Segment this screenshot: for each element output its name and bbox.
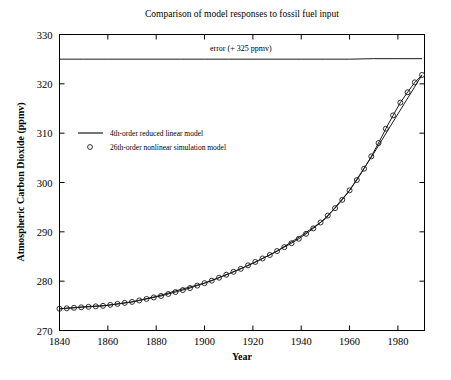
- y-tick-label: 290: [37, 227, 53, 238]
- error-trace: [60, 59, 423, 60]
- linear-model-path: [60, 75, 423, 309]
- y-tick-label: 310: [37, 128, 53, 139]
- legend-label-linear: 4th-order reduced linear model: [110, 129, 203, 138]
- error-annotation-label: error (+ 325 ppmv): [210, 44, 272, 53]
- y-axis-ticks: 270280290300310320330: [37, 30, 425, 337]
- linear-model-series: [60, 75, 423, 309]
- x-tick-label: 1960: [339, 336, 360, 347]
- x-tick-label: 1840: [49, 336, 70, 347]
- y-tick-label: 320: [37, 79, 53, 90]
- legend-label-nonlinear: 26th-order nonlinear simulation model: [110, 143, 226, 152]
- x-axis-ticks: 18401860188019001920194019601980: [49, 35, 408, 347]
- error-line-path: [60, 59, 423, 60]
- nonlinear-model-series: [57, 72, 425, 311]
- x-tick-label: 1860: [97, 336, 118, 347]
- plot-frame: [60, 35, 425, 331]
- legend-circle-swatch: [88, 145, 93, 150]
- y-tick-label: 300: [37, 178, 53, 189]
- y-tick-label: 280: [37, 276, 53, 287]
- chart-canvas: Comparison of model responses to fossil …: [0, 0, 451, 380]
- x-tick-label: 1940: [291, 336, 312, 347]
- y-tick-label: 330: [37, 30, 53, 41]
- y-tick-label: 270: [37, 326, 53, 337]
- x-tick-label: 1920: [242, 336, 263, 347]
- chart-title: Comparison of model responses to fossil …: [145, 9, 339, 19]
- x-tick-label: 1980: [387, 336, 408, 347]
- x-axis-label: Year: [232, 351, 253, 362]
- figure-container: Comparison of model responses to fossil …: [0, 0, 451, 380]
- chart-legend: 4th-order reduced linear model 26th-orde…: [78, 129, 226, 152]
- nonlinear-model-path: [60, 75, 423, 309]
- y-axis-label: Atmospheric Carbon Dioxide (ppmv): [15, 102, 27, 261]
- nonlinear-model-markers: [57, 72, 425, 311]
- x-tick-label: 1900: [194, 336, 215, 347]
- x-tick-label: 1880: [146, 336, 167, 347]
